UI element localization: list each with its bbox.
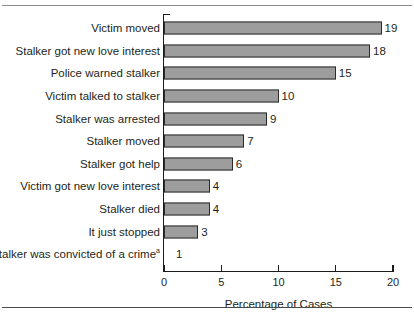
bar-row[interactable]: Stalker got new love interest18: [0, 40, 414, 63]
footnote-marker: a: [156, 247, 160, 254]
x-tick-label-5: 5: [218, 276, 224, 288]
bar[interactable]: [164, 203, 210, 216]
x-tick-label-15: 15: [330, 276, 342, 288]
plot-area: Victim moved19Stalker got new love inter…: [0, 10, 414, 290]
x-tick-20: [392, 265, 393, 272]
category-label: Victim moved: [91, 22, 160, 35]
bar-value-label: 15: [339, 67, 352, 79]
bar-row[interactable]: Stalker was arrested9: [0, 107, 414, 130]
x-tick-label-10: 10: [272, 276, 284, 288]
bar-row[interactable]: Stalker moved7: [0, 130, 414, 153]
category-label: Stalker was arrested: [55, 112, 160, 125]
bar-value-label: 3: [201, 226, 207, 238]
bar[interactable]: [164, 44, 370, 57]
bar-value-label: 9: [270, 113, 276, 125]
category-label: Stalker died: [99, 203, 160, 216]
bar-value-label: 1: [176, 248, 182, 260]
bar[interactable]: [164, 225, 198, 238]
bar-row[interactable]: Victim got new love interest4: [0, 175, 414, 198]
x-tick-10: [278, 265, 279, 272]
category-axis-top-cap: [163, 14, 170, 15]
category-label: Police warned stalker: [51, 67, 160, 80]
category-label: Stalker moved: [86, 135, 160, 148]
bottom-divider-rule: [2, 307, 412, 308]
x-tick-5: [221, 265, 222, 272]
category-label: Victim got new love interest: [20, 180, 160, 193]
category-label: Stalker got help: [80, 157, 160, 170]
cropped-title-fragment: [0, 0, 414, 4]
top-divider-rule: [2, 5, 412, 6]
x-tick-label-0: 0: [161, 276, 167, 288]
category-label: Victim talked to stalker: [45, 90, 160, 103]
category-label: Stalker got new love interest: [16, 44, 160, 57]
bar-row[interactable]: Victim talked to stalker10: [0, 85, 414, 108]
bar-value-label: 4: [213, 180, 219, 192]
x-tick-0: [163, 265, 164, 272]
category-label: Stalker was convicted of a crimea: [0, 248, 160, 261]
bar-value-label: 7: [247, 135, 253, 147]
bar[interactable]: [164, 112, 267, 125]
bar-row[interactable]: Police warned stalker15: [0, 62, 414, 85]
bar[interactable]: [164, 135, 244, 148]
bar-chart-figure: Victim moved19Stalker got new love inter…: [0, 0, 414, 313]
bar-value-label: 19: [385, 22, 398, 34]
bar-value-label: 6: [236, 158, 242, 170]
category-label: It just stopped: [88, 225, 160, 238]
bar[interactable]: [164, 90, 279, 103]
bar-value-label: 4: [213, 203, 219, 215]
bar-value-label: 18: [373, 45, 386, 57]
bar-row[interactable]: It just stopped3: [0, 220, 414, 243]
bar-row[interactable]: Stalker was convicted of a crimea1: [0, 243, 414, 266]
x-tick-label-20: 20: [387, 276, 399, 288]
bar-row[interactable]: Stalker died4: [0, 198, 414, 221]
bar-row[interactable]: Victim moved19: [0, 17, 414, 40]
bar-value-label: 10: [282, 90, 295, 102]
bar[interactable]: [164, 22, 382, 35]
bar[interactable]: [164, 180, 210, 193]
x-axis-title: Percentage of Cases: [163, 298, 394, 310]
x-tick-15: [335, 265, 336, 272]
bar[interactable]: [164, 67, 336, 80]
bar[interactable]: [164, 157, 233, 170]
bar-row[interactable]: Stalker got help6: [0, 153, 414, 176]
